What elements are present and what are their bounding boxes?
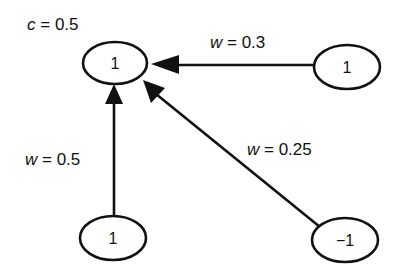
node-value: −1 <box>336 232 354 249</box>
network-diagram: c = 0.5 w = 0.3 w = 0.5 w = 0.25 1 1 1 −… <box>0 0 399 274</box>
edge-bottom-left-to-output <box>105 84 123 215</box>
weight-label-right: w = 0.3 <box>210 33 265 52</box>
node-value: 1 <box>109 230 118 247</box>
arrowhead-icon <box>151 55 179 74</box>
weight-label-bottom-left: w = 0.5 <box>25 150 80 169</box>
node-value: 1 <box>111 55 120 72</box>
weight-label-bottom-right: w = 0.25 <box>247 140 312 159</box>
node-input-right: 1 <box>314 45 380 89</box>
arrowhead-icon <box>105 84 123 104</box>
edge-line <box>156 94 320 227</box>
node-input-bottom-left: 1 <box>80 216 146 260</box>
node-output: 1 <box>83 42 147 84</box>
edge-right-to-output <box>151 55 314 74</box>
threshold-label: c = 0.5 <box>27 15 79 34</box>
node-input-bottom-right: −1 <box>312 218 378 262</box>
node-value: 1 <box>343 59 352 76</box>
